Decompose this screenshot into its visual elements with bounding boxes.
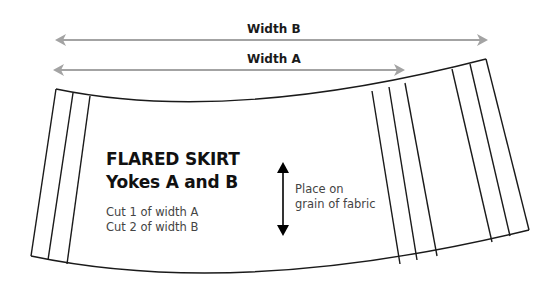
pattern-subtitle: Yokes A and B <box>106 172 238 192</box>
grain-label-line1: Place on <box>295 182 344 197</box>
cut-instruction-a: Cut 1 of width A <box>106 205 198 220</box>
width-a-arrow <box>53 64 405 76</box>
width-a-label: Width A <box>247 52 301 66</box>
grain-label-line2: grain of fabric <box>295 197 376 212</box>
cut-instruction-b: Cut 2 of width B <box>106 220 198 235</box>
pattern-title: FLARED SKIRT <box>106 149 240 169</box>
yoke-pattern-diagram <box>0 0 559 286</box>
width-b-label: Width B <box>247 22 301 36</box>
grain-arrow-icon <box>277 162 289 236</box>
